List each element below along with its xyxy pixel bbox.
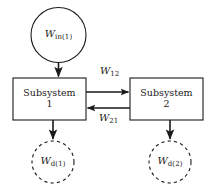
diagram-graphics <box>0 0 215 185</box>
w-21-symbol: W <box>99 112 109 123</box>
node-w-d-2-circle <box>149 141 191 183</box>
w-21-subscript: 21 <box>109 117 118 125</box>
node-w-d-1-circle <box>32 141 74 183</box>
node-w-in-1-circle <box>31 8 86 63</box>
node-subsystem-2-box <box>130 78 203 120</box>
edge-label-w-21: W21 <box>99 112 118 125</box>
diagram-canvas: Win(1) Subsystem 1 Subsystem 2 W12 W21 W… <box>0 0 215 185</box>
w-12-symbol: W <box>100 65 110 76</box>
w-12-subscript: 12 <box>110 70 119 78</box>
edge-label-w-12: W12 <box>100 65 119 78</box>
node-subsystem-1-box <box>13 78 86 120</box>
